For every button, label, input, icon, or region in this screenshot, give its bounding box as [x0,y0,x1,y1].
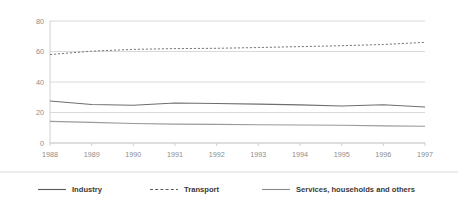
legend-item-label: Transport [184,185,219,194]
y-axis-tick-label: 60 [36,47,44,56]
x-axis-tick-label: 1995 [334,150,350,159]
x-axis-tick-label: 1988 [42,150,58,159]
y-axis-tick-label: 40 [36,78,44,87]
y-axis-tick-label: 80 [36,17,44,26]
x-axis-tick-label: 1993 [250,150,266,159]
x-axis-tick-label: 1996 [375,150,391,159]
x-axis-tick-label: 1994 [292,150,308,159]
line-chart: 020406080 198819891990199119921993199419… [0,0,458,212]
x-axis-tick-label: 1992 [209,150,225,159]
chart-canvas: 020406080 198819891990199119921993199419… [0,0,458,212]
y-axis-tick-label: 0 [40,139,44,148]
legend-item-label: Industry [72,185,103,194]
x-axis-tick-label: 1997 [417,150,433,159]
legend-item-label: Services, households and others [296,185,415,194]
x-axis-tick-label: 1990 [125,150,141,159]
chart-background [0,0,458,212]
x-axis-tick-label: 1989 [84,150,100,159]
y-axis-tick-label: 20 [36,108,44,117]
x-axis-tick-label: 1991 [167,150,183,159]
